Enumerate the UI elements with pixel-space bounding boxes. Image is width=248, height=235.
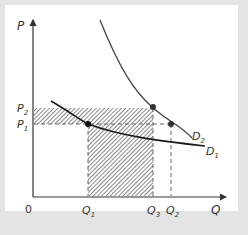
demand-diagram: P Q 0 P2 P1 Q1 Q3 Q2 D2 D1: [0, 0, 248, 235]
point-p1-q2: [168, 121, 174, 127]
quantity-label-q2: Q2: [166, 204, 180, 219]
curve-label-d2: D2: [192, 130, 205, 145]
quantity-label-q3: Q3: [147, 204, 160, 219]
point-p1-q1: [85, 121, 91, 127]
point-p2-q3: [150, 104, 156, 110]
x-axis-label: Q: [211, 203, 220, 217]
origin-label: 0: [25, 203, 32, 216]
curve-label-d1: D1: [206, 145, 219, 160]
hatched-area-price-band: [34, 108, 153, 124]
price-label-p2: P2: [17, 102, 29, 117]
hatched-area-quantity-band: [88, 124, 153, 196]
price-label-p1: P1: [17, 118, 28, 133]
quantity-label-q1: Q1: [82, 204, 95, 219]
y-axis-label: P: [17, 19, 25, 33]
